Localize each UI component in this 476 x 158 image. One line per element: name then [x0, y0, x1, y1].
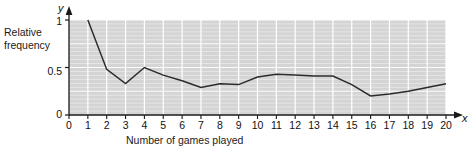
- y-axis-arrowhead: [66, 6, 73, 15]
- relative-frequency-line-chart: y x Relative frequency Number of games p…: [0, 0, 476, 158]
- x-axis-arrowhead: [454, 112, 463, 119]
- x-axis-ticks: [69, 115, 446, 119]
- plot-canvas: [0, 0, 476, 158]
